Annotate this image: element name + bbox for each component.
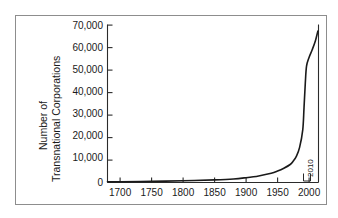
y-tick-label: 0 bbox=[97, 177, 103, 188]
y-axis-title-line1: Number of bbox=[37, 101, 49, 150]
y-tick-label: 40,000 bbox=[72, 86, 103, 97]
axis-spines bbox=[108, 25, 319, 183]
y-tick-label: 10,000 bbox=[72, 152, 103, 163]
chart-figure: 70,000 60,000 50,000 40,000 30,000 20,00… bbox=[0, 0, 338, 218]
x-tick-label: 1850 bbox=[203, 187, 226, 198]
x-axis-tick-labels: 1700 1750 1800 1850 1900 1950 2000 bbox=[109, 187, 321, 198]
y-tick-label: 20,000 bbox=[72, 130, 103, 141]
x-tick-label: 1700 bbox=[109, 187, 132, 198]
data-series-line bbox=[108, 31, 318, 182]
x-tick-label: 2000 bbox=[298, 187, 321, 198]
y-axis-ticks bbox=[108, 25, 113, 160]
annotation-2010: 2010 bbox=[304, 159, 316, 181]
line-chart: 70,000 60,000 50,000 40,000 30,000 20,00… bbox=[0, 0, 338, 218]
y-tick-label: 50,000 bbox=[72, 64, 103, 75]
x-tick-label: 1900 bbox=[235, 187, 258, 198]
y-tick-label: 70,000 bbox=[72, 20, 103, 31]
x-tick-label: 1950 bbox=[266, 187, 289, 198]
y-axis-title: Number of Transnational Corporations bbox=[37, 56, 62, 182]
y-tick-label: 30,000 bbox=[72, 108, 103, 119]
x-tick-label: 1750 bbox=[140, 187, 163, 198]
x-tick-label: 1800 bbox=[172, 187, 195, 198]
y-axis-tick-labels: 70,000 60,000 50,000 40,000 30,000 20,00… bbox=[72, 20, 103, 188]
y-axis-title-line2: Transnational Corporations bbox=[50, 56, 62, 182]
y-tick-label: 60,000 bbox=[72, 42, 103, 53]
